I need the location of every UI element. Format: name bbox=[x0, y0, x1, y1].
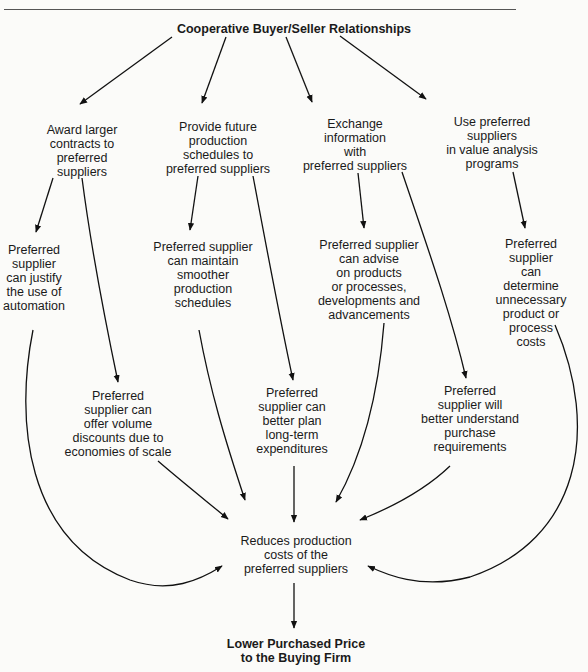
action-value-analysis: Use preferred suppliers in value analysi… bbox=[446, 115, 538, 171]
arrow-smoother-to-convergence bbox=[199, 330, 245, 500]
benefit-justify-automation: Preferred supplier can justify the use o… bbox=[3, 243, 65, 313]
arrow-award-to-automation bbox=[36, 178, 53, 232]
arrow-exchange-to-advise bbox=[358, 173, 364, 228]
arrow-root-to-exchange bbox=[286, 37, 312, 102]
arrow-award-to-volume bbox=[82, 178, 118, 382]
convergence-reduces-costs: Reduces production costs of the preferre… bbox=[240, 534, 351, 576]
root-node-cooperative-relationships: Cooperative Buyer/Seller Relationships bbox=[177, 22, 411, 36]
benefit-smoother-schedules: Preferred supplier can maintain smoother… bbox=[153, 240, 252, 310]
action-provide-schedules: Provide future production schedules to p… bbox=[166, 120, 270, 176]
arrow-advise-to-convergence bbox=[336, 323, 384, 502]
arrow-provide-to-longterm bbox=[253, 176, 293, 380]
action-exchange-information: Exchange information with preferred supp… bbox=[303, 117, 407, 173]
arrow-root-to-award bbox=[80, 37, 172, 104]
benefit-volume-discounts: Preferred supplier can offer volume disc… bbox=[64, 389, 171, 459]
arrow-volume-to-convergence bbox=[158, 461, 228, 519]
benefit-advise-products: Preferred supplier can advise on product… bbox=[318, 238, 420, 322]
arrow-value-to-unnecessary bbox=[513, 172, 525, 228]
arrow-provide-to-smoother bbox=[190, 176, 198, 230]
benefit-long-term-planning: Preferred supplier can better plan long-… bbox=[256, 386, 328, 456]
action-award-contracts: Award larger contracts to preferred supp… bbox=[47, 123, 118, 179]
arrow-root-to-provide bbox=[202, 37, 226, 103]
benefit-understand-requirements: Preferred supplier will better understan… bbox=[421, 384, 519, 454]
arrow-root-to-value bbox=[340, 36, 426, 99]
arrow-understand-to-convergence bbox=[360, 466, 450, 520]
benefit-unnecessary-costs: Preferred supplier can determine unneces… bbox=[496, 237, 567, 349]
outcome-lower-price: Lower Purchased Price to the Buying Firm bbox=[227, 637, 365, 665]
